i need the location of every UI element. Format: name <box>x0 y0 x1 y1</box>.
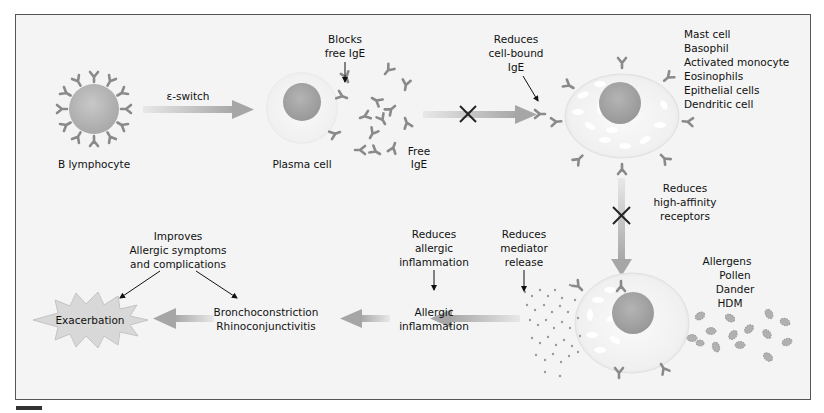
allergic-inflammation-label-2: inflammation <box>399 320 469 332</box>
plasma-cell-label: Plasma cell <box>272 158 331 170</box>
free-ige-label-1: Free <box>408 145 430 157</box>
e-switch-label: ε-switch <box>167 90 210 102</box>
exacerbation-label: Exacerbation <box>55 314 124 326</box>
left-arrow-icon <box>340 309 390 328</box>
free-ige-label-2: IgE <box>411 158 427 170</box>
down-arrow-icon <box>611 178 632 276</box>
reduces-mediator-label-1: Reduces <box>502 228 546 240</box>
pointer-arrow-icon <box>523 76 538 101</box>
allergen-item: Dander <box>716 283 755 295</box>
reduces-inflammation-label-2: allergic <box>415 242 453 254</box>
degranulating-cell-icon <box>572 273 689 378</box>
blocks-free-ige-label-1: Blocks <box>328 33 362 45</box>
allergen-particles-icon <box>687 308 793 363</box>
reduces-cell-bound-label-3: IgE <box>508 61 524 73</box>
blocked-arrow-icon <box>423 105 537 124</box>
target-cell-item: Dendritic cell <box>684 98 753 110</box>
reduces-mediator-label-2: mediator <box>500 242 548 254</box>
plasma-cell-icon <box>266 72 338 144</box>
mast-cell-icon <box>551 58 693 174</box>
target-cell-item: Mast cell <box>684 28 731 40</box>
reduces-cell-bound-label-2: cell-bound <box>489 47 544 59</box>
reduces-receptors-label-1: Reduces <box>663 182 707 194</box>
reduces-cell-bound-label-1: Reduces <box>494 33 538 45</box>
reduces-receptors-label-2: high-affinity <box>653 196 716 208</box>
symptom-item: Bronchoconstriction <box>214 306 319 318</box>
b-lymphocyte-label: B lymphocyte <box>58 158 130 170</box>
allergen-item: HDM <box>717 297 742 309</box>
mediator-particles-icon <box>524 284 581 377</box>
target-cell-item: Activated monocyte <box>684 56 789 68</box>
target-cell-item: Epithelial cells <box>684 84 760 96</box>
allergen-item: Pollen <box>719 269 750 281</box>
b-lymphocyte-icon <box>57 72 131 146</box>
reduces-inflammation-label-1: Reduces <box>412 228 456 240</box>
left-arrow-icon <box>153 308 214 329</box>
target-cells-list: Mast cell Basophil Activated monocyte Eo… <box>684 28 789 110</box>
symptom-item: Rhinoconjunctivitis <box>216 320 315 332</box>
diagram-canvas: B lymphocyte ε-switch Plasma cell Free I… <box>0 0 824 413</box>
allergic-inflammation-label-1: Allergic <box>415 306 454 318</box>
pointer-arrow-icon <box>120 271 160 298</box>
target-cell-item: Basophil <box>684 42 729 54</box>
e-switch-arrow-icon <box>143 100 254 119</box>
free-ige-cluster-icon <box>329 64 412 158</box>
target-cell-item: Eosinophils <box>684 70 743 82</box>
improves-label-1: Improves <box>154 230 203 242</box>
caption-marker <box>16 406 42 410</box>
reduces-inflammation-label-3: inflammation <box>399 256 469 268</box>
blocks-free-ige-label-2: free IgE <box>325 47 365 59</box>
reduces-mediator-label-3: release <box>505 256 543 268</box>
improves-label-3: and complications <box>130 258 226 270</box>
improves-label-2: Allergic symptoms <box>129 244 226 256</box>
reduces-receptors-label-3: receptors <box>660 210 710 222</box>
pointer-arrow-icon <box>196 271 237 298</box>
allergens-label: Allergens <box>703 255 752 267</box>
